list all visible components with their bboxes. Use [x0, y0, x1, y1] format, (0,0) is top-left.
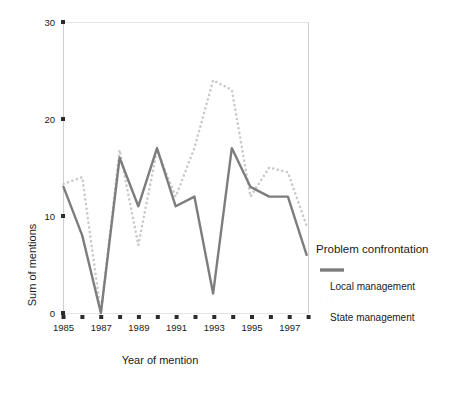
y-tick-label-10: 10 — [44, 211, 55, 222]
x-tick-1995 — [250, 315, 254, 319]
x-tick-1993 — [212, 315, 216, 319]
y-tick-20 — [61, 117, 65, 121]
x-tick-1986 — [80, 315, 84, 319]
x-tick-1992 — [194, 315, 198, 319]
x-tick-1996 — [269, 315, 273, 319]
x-tick-label-1987: 1987 — [91, 322, 112, 333]
x-tick-label-1995: 1995 — [241, 322, 262, 333]
x-tick-label-1993: 1993 — [204, 322, 225, 333]
x-tick-label-1989: 1989 — [128, 322, 149, 333]
y-tick-label-30: 30 — [44, 17, 55, 28]
line-chart-canvas: 30 20 10 0 1985 1987 1989 19 — [0, 0, 475, 395]
x-tick-1989 — [137, 315, 141, 319]
legend-label-local-management: Local management — [330, 281, 415, 292]
x-tick-1998 — [307, 315, 311, 319]
x-tick-1990 — [156, 315, 160, 319]
y-axis-title: Sum of mentions — [26, 223, 38, 306]
x-tick-1985 — [62, 315, 66, 319]
x-tick-1987 — [99, 315, 103, 319]
x-tick-1994 — [231, 315, 235, 319]
x-tick-label-1997: 1997 — [279, 322, 300, 333]
x-tick-1988 — [118, 315, 122, 319]
x-tick-label-1985: 1985 — [53, 322, 74, 333]
y-tick-0 — [61, 311, 65, 315]
y-tick-30 — [61, 20, 65, 24]
legend-label-state-management: State management — [330, 312, 415, 323]
x-axis-title: Year of mention — [122, 354, 199, 366]
legend-title: Problem confrontation — [316, 243, 429, 255]
x-tick-label-1991: 1991 — [166, 322, 187, 333]
y-tick-10 — [61, 214, 65, 218]
x-tick-1991 — [175, 315, 179, 319]
chart-background — [0, 0, 475, 395]
x-tick-1997 — [288, 315, 292, 319]
chart-figure: 30 20 10 0 1985 1987 1989 19 — [0, 0, 475, 395]
y-tick-label-20: 20 — [44, 114, 55, 125]
y-tick-label-0: 0 — [50, 308, 55, 319]
